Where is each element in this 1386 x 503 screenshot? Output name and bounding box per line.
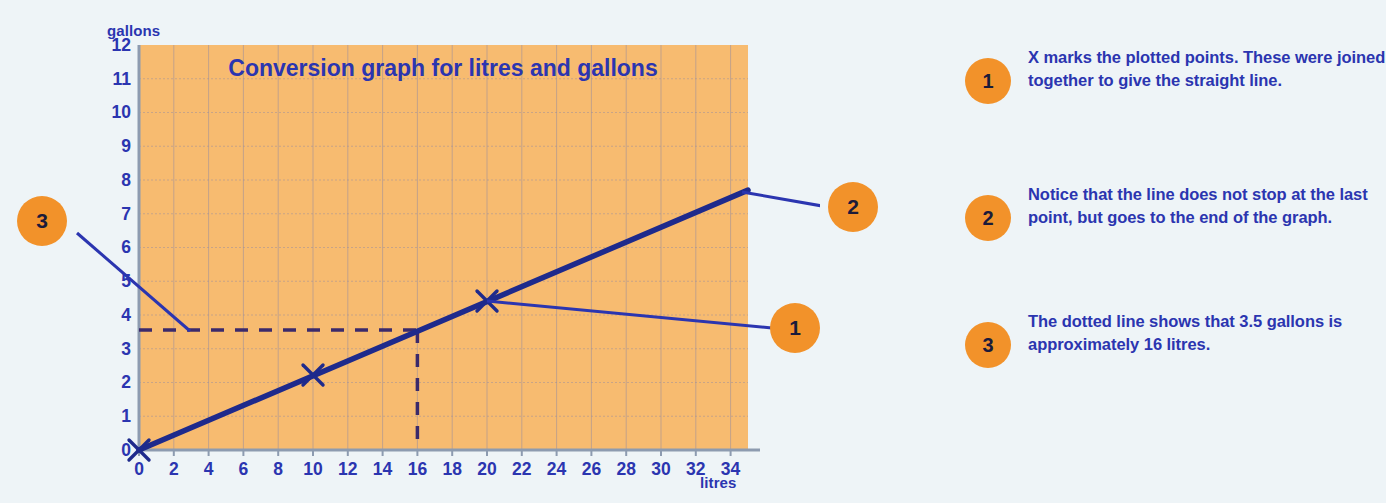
callout-badge-1[interactable]: 1: [770, 303, 820, 353]
x-tick-label: 10: [303, 459, 323, 479]
annotation-badge-1[interactable]: 1: [965, 58, 1011, 104]
x-tick-label: 28: [616, 459, 636, 479]
y-tick-label: 9: [121, 136, 131, 156]
x-tick-label: 12: [338, 459, 358, 479]
chart-title: Conversion graph for litres and gallons: [228, 55, 657, 81]
x-tick-label: 20: [477, 459, 497, 479]
screenshot-stage: Conversion graph for litres and gallons …: [0, 0, 1386, 503]
x-tick-label: 24: [547, 459, 567, 479]
x-tick-label: 4: [204, 459, 214, 479]
x-tick-label: 2: [169, 459, 179, 479]
y-tick-label: 6: [121, 237, 131, 257]
annotation-item: 2 Notice that the line does not stop at …: [965, 183, 1386, 241]
x-tick-label: 22: [512, 459, 532, 479]
annotation-badge-3[interactable]: 3: [965, 322, 1011, 368]
conversion-graph-figure: Conversion graph for litres and gallons …: [0, 0, 820, 503]
y-tick-label: 7: [121, 204, 131, 224]
y-tick-label: 1: [121, 406, 131, 426]
callout-badge-2[interactable]: 2: [828, 182, 878, 232]
x-tick-label: 14: [373, 459, 393, 479]
y-tick-label: 11: [113, 69, 132, 89]
x-axis-tick-labels: 0 2 4 6 8 10 12 14 16 18 20 22 24 26 28 …: [134, 459, 740, 479]
callout-2-leader-line: [742, 192, 820, 207]
y-axis-title: gallons: [107, 22, 160, 39]
x-tick-label: 6: [239, 459, 249, 479]
y-axis-tick-labels: 12 11 10 9 8 7 6 5 4 3 2 1 0: [112, 35, 132, 460]
annotation-badge-2[interactable]: 2: [965, 195, 1011, 241]
x-tick-label: 0: [134, 459, 144, 479]
annotation-text-3: The dotted line shows that 3.5 gallons i…: [1028, 310, 1386, 357]
annotation-list: 1 X marks the plotted points. These were…: [965, 0, 1386, 503]
chart-canvas: Conversion graph for litres and gallons …: [0, 0, 820, 503]
y-tick-label: 2: [121, 372, 131, 392]
x-tick-label: 8: [273, 459, 283, 479]
annotation-text-1: X marks the plotted points. These were j…: [1028, 46, 1386, 93]
x-axis-title: litres: [700, 474, 736, 491]
annotation-item: 3 The dotted line shows that 3.5 gallons…: [965, 310, 1386, 368]
x-tick-label: 18: [442, 459, 462, 479]
y-tick-label: 4: [121, 305, 131, 325]
callout-badge-3[interactable]: 3: [17, 196, 67, 246]
annotation-text-2: Notice that the line does not stop at th…: [1028, 183, 1386, 230]
y-tick-label: 10: [112, 102, 132, 122]
y-tick-label: 3: [121, 339, 131, 359]
y-tick-label: 8: [121, 170, 131, 190]
x-tick-label: 26: [582, 459, 602, 479]
annotation-item: 1 X marks the plotted points. These were…: [965, 46, 1386, 104]
x-tick-label: 16: [408, 459, 428, 479]
x-tick-label: 30: [651, 459, 671, 479]
